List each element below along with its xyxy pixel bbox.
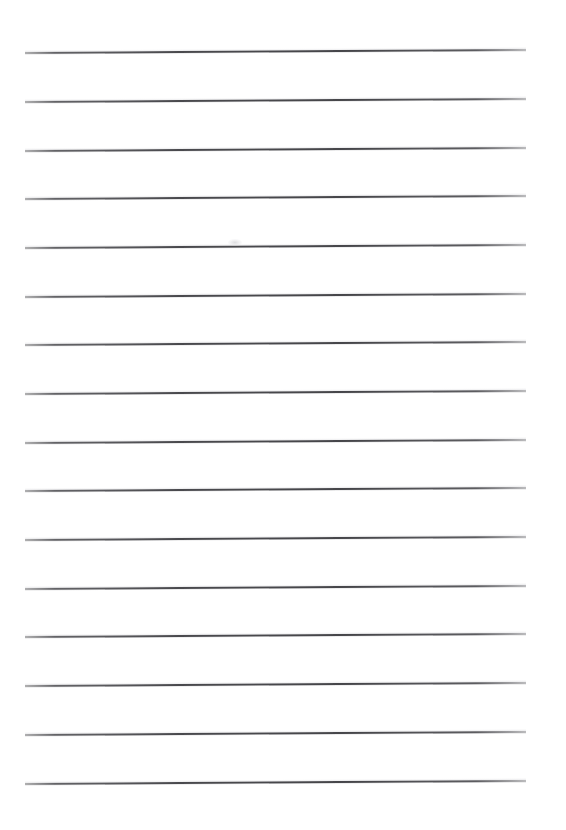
ruled-line <box>25 439 526 444</box>
ruled-line <box>25 731 526 736</box>
ruled-line <box>25 147 526 152</box>
ruled-line <box>25 293 526 298</box>
scanned-page: Blank ruled paper <box>0 0 566 830</box>
ruled-line <box>25 195 526 200</box>
ruled-line <box>25 536 526 541</box>
ruled-line <box>25 585 526 590</box>
ruled-line <box>25 244 526 249</box>
ruled-line <box>25 98 526 103</box>
page-title: Blank ruled paper <box>0 0 1 1</box>
ruled-line <box>25 780 526 785</box>
ruled-line <box>25 682 526 687</box>
paper-background <box>0 0 566 830</box>
ruled-line <box>25 487 526 492</box>
ruled-line <box>25 49 526 54</box>
ruled-line <box>25 390 526 395</box>
page-body-text <box>0 0 1 1</box>
ruled-line <box>25 633 526 638</box>
ruled-line <box>25 341 526 346</box>
